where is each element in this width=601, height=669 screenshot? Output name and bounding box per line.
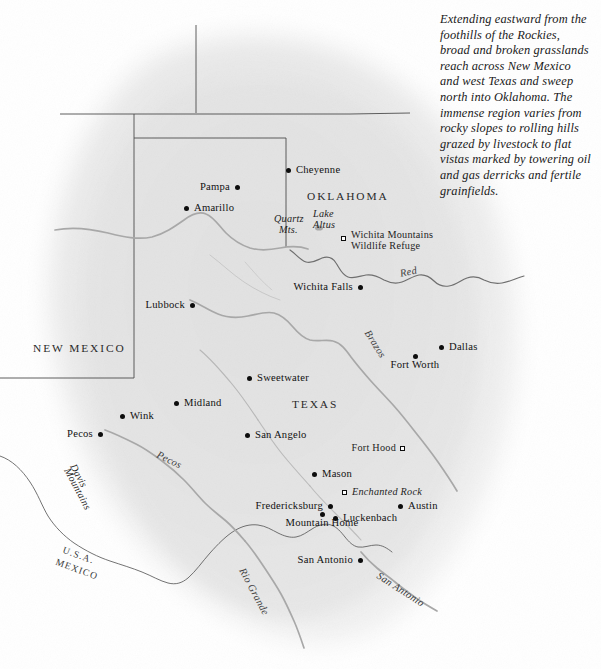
city-label-dallas: Dallas [449, 341, 478, 352]
city-label-sweetwater: Sweetwater [257, 372, 309, 383]
state-label-oklahoma: OKLAHOMA [307, 191, 389, 202]
city-dot-luckenbach[interactable] [333, 516, 338, 521]
city-label-wichita-falls: Wichita Falls [293, 281, 353, 292]
city-dot-dallas[interactable] [439, 345, 444, 350]
city-dot-fredericksburg[interactable] [328, 504, 333, 509]
city-label-luckenbach: Luckenbach [343, 512, 397, 523]
city-label-wink: Wink [130, 410, 154, 421]
city-label-cheyenne: Cheyenne [296, 164, 340, 175]
landmark-label-enchanted-rock: Enchanted Rock [352, 486, 422, 497]
landmark-square-fort-hood[interactable] [400, 446, 405, 451]
feature-label-quartz-mts-line1: Quartz [274, 213, 304, 224]
city-dot-san-antonio[interactable] [358, 558, 363, 563]
city-label-mason: Mason [322, 468, 352, 479]
city-label-fort-worth: Fort Worth [391, 359, 440, 370]
state-label-texas: TEXAS [292, 399, 338, 410]
city-dot-austin[interactable] [398, 504, 403, 509]
city-dot-wink[interactable] [120, 414, 125, 419]
state-label-new-mexico: NEW MEXICO [33, 343, 126, 354]
city-dot-mason[interactable] [312, 472, 317, 477]
landmark-label-wichita-mountains-line1: Wichita Mountains [351, 229, 443, 241]
city-dot-san-angelo[interactable] [245, 433, 250, 438]
city-label-fredericksburg: Fredericksburg [256, 500, 323, 511]
feature-label-quartz-mts-line2: Mts. [279, 224, 298, 235]
feature-label-lake-altus-line1: Lake [313, 208, 334, 219]
label-layer: NEW MEXICO OKLAHOMA TEXAS Cheyenne Pampa… [0, 0, 601, 669]
river-label-red: Red [399, 264, 418, 278]
landmark-square-enchanted-rock[interactable] [342, 490, 347, 495]
city-label-pampa: Pampa [200, 181, 230, 192]
city-dot-pecos[interactable] [98, 432, 103, 437]
city-label-san-antonio: San Antonio [298, 554, 353, 565]
city-dot-lubbock[interactable] [190, 303, 195, 308]
city-label-midland: Midland [184, 397, 222, 408]
city-label-amarillo: Amarillo [194, 202, 234, 213]
river-label-rio-grande: Rio Grande [237, 566, 271, 617]
river-label-pecos: Pecos [155, 449, 183, 470]
city-dot-wichita-falls[interactable] [358, 285, 363, 290]
landmark-square-wichita-mountains-wildlife-refuge[interactable] [341, 236, 346, 241]
river-label-brazos: Brazos [363, 328, 389, 360]
city-label-san-angelo: San Angelo [255, 429, 307, 440]
landmark-label-fort-hood: Fort Hood [352, 442, 396, 453]
map-page: Extending eastward from the foothills of… [0, 0, 601, 669]
city-dot-midland[interactable] [174, 401, 179, 406]
landmark-label-wichita-mountains-line2: Wildlife Refuge [351, 240, 443, 252]
city-label-pecos: Pecos [67, 428, 93, 439]
city-label-austin: Austin [408, 500, 438, 511]
city-label-lubbock: Lubbock [146, 299, 185, 310]
feature-label-lake-altus-line2: Altus [313, 219, 335, 230]
city-dot-amarillo[interactable] [184, 206, 189, 211]
city-dot-cheyenne[interactable] [286, 168, 291, 173]
city-dot-pampa[interactable] [235, 185, 240, 190]
river-label-san-antonio: San Antonio [375, 570, 426, 609]
city-dot-sweetwater[interactable] [247, 376, 252, 381]
